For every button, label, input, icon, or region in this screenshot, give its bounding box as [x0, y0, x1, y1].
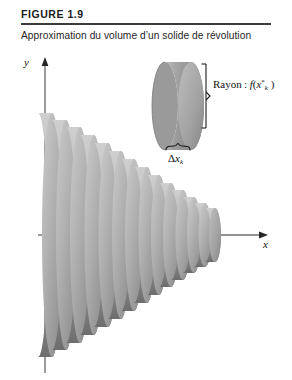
thickness-annotation: Δxk [168, 152, 183, 166]
sample-disk-front-face [178, 62, 204, 150]
radius-bracket-pointer [206, 92, 210, 100]
x-axis-label: x [263, 238, 268, 250]
y-axis-label: y [24, 56, 29, 68]
solid-of-revolution-illustration [0, 0, 292, 380]
radius-prefix-text: Rayon : [213, 78, 250, 90]
figure-card: FIGURE 1.9 Approximation du volume d’un … [0, 0, 292, 380]
y-axis-arrowhead [42, 57, 49, 66]
sample-disk [152, 62, 204, 150]
stacked-disks-group [38, 113, 221, 357]
radius-close-paren: ) [268, 78, 274, 90]
radius-annotation: Rayon : f(x*k ) [213, 78, 274, 92]
delta-index-subscript: k [180, 158, 183, 166]
